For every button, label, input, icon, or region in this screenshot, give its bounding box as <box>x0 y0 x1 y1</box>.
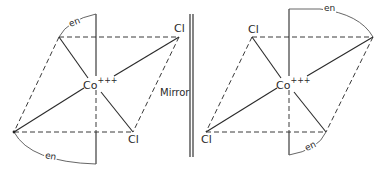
right-cl-top-label: Cl <box>248 24 259 35</box>
left-cl-bottom-label: Cl <box>128 134 139 145</box>
diagram-lines <box>0 0 384 173</box>
right-bond-tr <box>307 37 373 76</box>
left-bond-br <box>101 92 133 132</box>
right-en-arc-top <box>289 9 373 37</box>
right-cl-bottom-label: Cl <box>201 134 212 145</box>
left-bond-tl <box>59 37 88 78</box>
left-vertex-dot <box>13 131 16 134</box>
right-bond-tl <box>252 37 281 78</box>
right-bond-br <box>294 92 326 132</box>
mirror-image-isomers-diagram: Co+++ Cl Cl en en Mirror Co+++ Cl Cl en … <box>0 0 384 173</box>
left-bond-tr <box>114 37 179 76</box>
left-cobalt-label: Co+++ <box>83 78 118 91</box>
left-cl-top-label: Cl <box>174 23 185 34</box>
right-en-top-label: en <box>323 4 336 13</box>
mirror-plane <box>190 14 193 157</box>
mirror-label: Mirror <box>160 88 189 98</box>
right-cobalt-label: Co+++ <box>276 78 311 91</box>
